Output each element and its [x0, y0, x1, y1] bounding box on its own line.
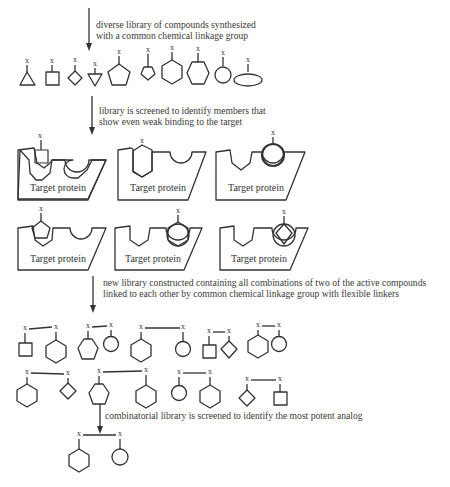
- step-3-caption-line-1: new library constructed containing all c…: [103, 277, 426, 288]
- linker-x-label: x: [77, 430, 81, 438]
- linker-x-label: x: [207, 327, 211, 335]
- target-protein-label-3: Target protein: [228, 182, 284, 193]
- arrow-step-4: [97, 404, 103, 434]
- linker-x-label: x: [139, 323, 143, 331]
- linker-x-label: x: [86, 322, 90, 330]
- linker-x-label: x: [66, 369, 70, 377]
- linker-x-label: x: [25, 57, 29, 65]
- linker-x-label: x: [271, 129, 275, 137]
- linker-x-label: x: [245, 375, 249, 383]
- arrow-step-2: [89, 96, 95, 135]
- linker-x-label: x: [39, 205, 43, 213]
- linker-x-label: x: [118, 430, 122, 438]
- linker-x-label: x: [282, 208, 286, 216]
- linker-x-label: x: [196, 45, 200, 53]
- most-potent-analog: [69, 435, 128, 472]
- step-4-caption-line-1: combinatorial library is screened to ide…: [105, 410, 363, 421]
- linker-x-label: x: [256, 321, 260, 329]
- step-2-caption-line-2: show even weak binding to the target: [99, 116, 266, 127]
- linker-x-label: x: [73, 56, 77, 64]
- linker-x-label: x: [176, 207, 180, 215]
- linker-x-label: x: [117, 48, 121, 56]
- linker-x-label: x: [278, 375, 282, 383]
- step-2-caption: library is screened to identify members …: [99, 105, 266, 127]
- linker-x-label: x: [177, 368, 181, 376]
- step-1-caption-line-2: with a common chemical linkage group: [96, 30, 256, 41]
- linker-x-label: x: [25, 368, 29, 376]
- linker-x-label: x: [170, 44, 174, 52]
- arrow-step-3: [90, 276, 96, 313]
- linker-x-label: x: [54, 323, 58, 331]
- linker-x-label: x: [181, 323, 185, 331]
- step-3-caption-line-2: linked to each other by common chemical …: [103, 288, 426, 299]
- linker-x-label: x: [140, 137, 144, 145]
- target-protein-label-4: Target protein: [30, 253, 86, 264]
- linker-x-label: x: [246, 56, 250, 64]
- combination-row-1: [19, 326, 287, 363]
- target-protein-label-6: Target protein: [231, 253, 287, 264]
- linker-x-label: x: [146, 46, 150, 54]
- step-1-caption-line-1: diverse library of compounds synthesized: [96, 19, 256, 30]
- linker-x-label: x: [50, 57, 54, 65]
- linker-x-label: x: [38, 132, 42, 140]
- linker-x-label: x: [109, 321, 113, 329]
- linker-x-label: x: [93, 60, 97, 68]
- linker-x-label: x: [221, 49, 225, 57]
- target-protein-label-2: Target protein: [130, 182, 186, 193]
- linker-x-label: x: [97, 367, 101, 375]
- step-1-caption: diverse library of compounds synthesized…: [96, 19, 256, 41]
- linker-x-label: x: [144, 366, 148, 374]
- step-2-caption-line-1: library is screened to identify members …: [99, 105, 266, 116]
- target-protein-label-1: Target protein: [30, 182, 86, 193]
- step-4-caption: combinatorial library is screened to ide…: [105, 410, 363, 421]
- initial-library: [20, 52, 262, 86]
- arrow-step-1: [86, 8, 92, 51]
- linker-x-label: x: [23, 324, 27, 332]
- step-3-caption: new library constructed containing all c…: [103, 277, 426, 299]
- linker-x-label: x: [277, 321, 281, 329]
- target-protein-label-5: Target protein: [125, 253, 181, 264]
- combinatorial-screening-diagram: diverse library of compounds synthesized…: [0, 0, 450, 487]
- linker-x-label: x: [208, 368, 212, 376]
- linker-x-label: x: [227, 327, 231, 335]
